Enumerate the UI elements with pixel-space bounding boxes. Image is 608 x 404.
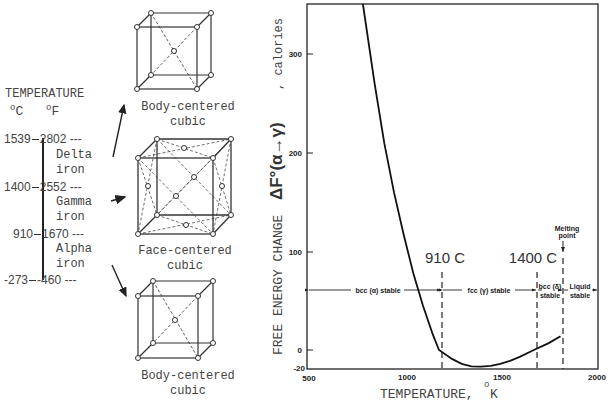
bcc-cube-bottom-icon [136, 279, 216, 361]
svg-text:100: 100 [289, 248, 303, 257]
svg-text:500: 500 [302, 374, 316, 383]
arrow-to-fcc [111, 197, 125, 201]
melting-point-label: Melting point [555, 225, 580, 252]
y-axis-tick-labels: 300 200 100 0 -20 [289, 50, 306, 373]
x-axis-tick-labels: 500 1000 1500 2000 [302, 373, 606, 383]
diagram-canvas: 300 200 100 0 -20 500 1000 1500 2000 FRE… [0, 0, 608, 404]
bcc-cube-top-icon [135, 11, 214, 92]
y-axis-ticks [307, 54, 313, 350]
phase-boundary-lines [442, 258, 563, 369]
region-bcc-delta-label: bcc (δ) stable [539, 283, 562, 299]
svg-text:1500: 1500 [493, 373, 511, 382]
svg-text:stable: stable [540, 292, 560, 299]
region-fcc-gamma-label: fcc (γ) stable [468, 287, 511, 295]
svg-text:bcc (δ): bcc (δ) [539, 283, 562, 291]
chart-frame [307, 4, 598, 369]
svg-text:300: 300 [289, 50, 303, 59]
svg-text:o: o [484, 380, 489, 390]
y-axis-label: FREE ENERGY CHANGE ΔF°(α→γ) , calories [267, 18, 286, 355]
region-liquid-label: Liquid stable [570, 283, 591, 299]
marker-910c-label: 910 C [425, 249, 465, 266]
svg-text:2000: 2000 [588, 373, 606, 382]
svg-text:, calories: , calories [272, 18, 286, 90]
svg-text:TEMPERATURE,: TEMPERATURE, [380, 387, 474, 402]
marker-1400c-label: 1400 C [509, 249, 558, 266]
svg-text:-20: -20 [293, 364, 305, 373]
svg-text:point: point [558, 232, 576, 240]
arrow-to-bcc-bottom [112, 265, 126, 296]
svg-text:Liquid: Liquid [570, 283, 591, 291]
free-energy-curve [363, 4, 561, 367]
fcc-cube-icon [136, 137, 234, 237]
svg-text:ΔF°(α→γ): ΔF°(α→γ) [267, 122, 286, 200]
svg-text:200: 200 [289, 149, 303, 158]
region-bcc-alpha-label: bcc (α) stable [355, 287, 400, 295]
svg-text:K: K [490, 387, 498, 402]
svg-text:1000: 1000 [398, 373, 416, 382]
svg-text:stable: stable [570, 292, 590, 299]
x-axis-label: TEMPERATURE, o K [380, 380, 498, 402]
svg-text:0: 0 [298, 346, 303, 355]
arrow-to-bcc-top [113, 105, 124, 157]
svg-text:FREE ENERGY CHANGE: FREE ENERGY CHANGE [271, 214, 286, 355]
